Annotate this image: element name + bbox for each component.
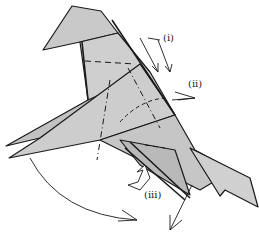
paper-facets <box>6 6 258 207</box>
label-step-ii: (ii) <box>188 79 202 89</box>
arrow-ii <box>172 92 195 100</box>
down-arrow <box>170 185 192 230</box>
diagram-drawing <box>0 0 259 235</box>
label-step-i: (i) <box>163 33 174 43</box>
arrow-i-2 <box>158 40 172 72</box>
origami-diagram: (i) (ii) (iii) <box>0 0 259 235</box>
curved-swing-arrow <box>30 158 137 221</box>
label-step-iii: (iii) <box>144 190 161 200</box>
arrow-iii <box>128 165 150 190</box>
